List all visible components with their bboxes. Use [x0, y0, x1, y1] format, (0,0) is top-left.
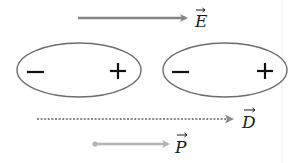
dipole-right — [163, 43, 287, 97]
p-vector-label: P — [174, 133, 187, 157]
positive-charge-icon — [110, 63, 126, 79]
d-field-label: D — [241, 108, 256, 132]
e-field-label: E — [194, 8, 208, 31]
dipole-left — [17, 43, 141, 97]
vector-p: P — [92, 133, 187, 157]
p-vector-symbol: P — [174, 137, 187, 157]
polarization-diagram: E D — [0, 0, 300, 163]
d-field-symbol: D — [241, 112, 256, 132]
positive-charge-icon — [257, 63, 273, 79]
vector-e: E — [78, 8, 208, 31]
vector-d: D — [37, 108, 256, 132]
e-field-symbol: E — [194, 11, 208, 31]
